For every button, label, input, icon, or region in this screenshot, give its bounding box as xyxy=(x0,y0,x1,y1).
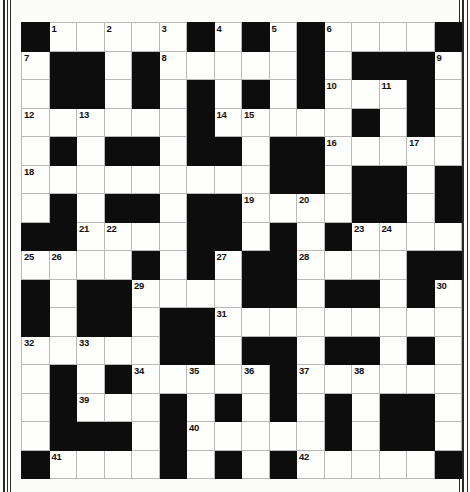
crossword-cell[interactable] xyxy=(132,336,160,365)
crossword-cell[interactable] xyxy=(77,165,105,194)
crossword-cell[interactable]: 12 xyxy=(22,108,50,137)
crossword-cell[interactable] xyxy=(407,194,435,223)
crossword-cell[interactable]: 23 xyxy=(352,222,380,251)
crossword-cell[interactable] xyxy=(379,365,407,394)
crossword-cell[interactable] xyxy=(132,165,160,194)
crossword-cell[interactable]: 33 xyxy=(77,336,105,365)
crossword-cell[interactable]: 37 xyxy=(297,365,325,394)
crossword-cell[interactable]: 29 xyxy=(132,279,160,308)
crossword-cell[interactable]: 30 xyxy=(434,279,462,308)
crossword-cell[interactable] xyxy=(379,251,407,280)
crossword-cell[interactable] xyxy=(132,222,160,251)
crossword-cell[interactable] xyxy=(407,365,435,394)
crossword-cell[interactable] xyxy=(22,80,50,109)
crossword-cell[interactable]: 1 xyxy=(49,23,77,52)
crossword-cell[interactable] xyxy=(187,51,215,80)
crossword-cell[interactable] xyxy=(104,450,132,479)
crossword-cell[interactable]: 21 xyxy=(77,222,105,251)
crossword-cell[interactable] xyxy=(104,108,132,137)
crossword-cell[interactable] xyxy=(379,23,407,52)
crossword-cell[interactable]: 2 xyxy=(104,23,132,52)
crossword-cell[interactable]: 15 xyxy=(242,108,270,137)
crossword-cell[interactable] xyxy=(22,393,50,422)
crossword-cell[interactable] xyxy=(324,450,352,479)
crossword-cell[interactable] xyxy=(352,308,380,337)
crossword-cell[interactable] xyxy=(379,308,407,337)
crossword-cell[interactable]: 3 xyxy=(159,23,187,52)
crossword-cell[interactable] xyxy=(379,336,407,365)
crossword-cell[interactable] xyxy=(269,422,297,451)
crossword-cell[interactable] xyxy=(352,422,380,451)
crossword-cell[interactable] xyxy=(242,137,270,166)
crossword-cell[interactable] xyxy=(407,450,435,479)
crossword-cell[interactable]: 8 xyxy=(159,51,187,80)
crossword-cell[interactable]: 5 xyxy=(269,23,297,52)
crossword-cell[interactable]: 40 xyxy=(187,422,215,451)
crossword-cell[interactable] xyxy=(49,308,77,337)
crossword-cell[interactable]: 31 xyxy=(214,308,242,337)
crossword-grid[interactable]: 1234567891011121314151617181920212223242… xyxy=(21,22,462,479)
crossword-cell[interactable] xyxy=(214,422,242,451)
crossword-cell[interactable] xyxy=(434,308,462,337)
crossword-cell[interactable] xyxy=(297,222,325,251)
crossword-cell[interactable] xyxy=(49,279,77,308)
crossword-cell[interactable] xyxy=(132,23,160,52)
crossword-cell[interactable] xyxy=(214,279,242,308)
crossword-cell[interactable]: 17 xyxy=(407,137,435,166)
crossword-cell[interactable] xyxy=(242,51,270,80)
crossword-cell[interactable]: 22 xyxy=(104,222,132,251)
crossword-cell[interactable] xyxy=(434,80,462,109)
crossword-cell[interactable] xyxy=(104,80,132,109)
crossword-cell[interactable] xyxy=(187,279,215,308)
crossword-cell[interactable] xyxy=(159,80,187,109)
crossword-cell[interactable] xyxy=(242,165,270,194)
crossword-cell[interactable] xyxy=(324,365,352,394)
crossword-cell[interactable] xyxy=(242,393,270,422)
crossword-cell[interactable] xyxy=(187,450,215,479)
crossword-cell[interactable]: 24 xyxy=(379,222,407,251)
crossword-cell[interactable] xyxy=(242,308,270,337)
crossword-cell[interactable] xyxy=(352,137,380,166)
crossword-cell[interactable]: 16 xyxy=(324,137,352,166)
crossword-cell[interactable] xyxy=(352,393,380,422)
crossword-cell[interactable] xyxy=(132,393,160,422)
crossword-cell[interactable]: 14 xyxy=(214,108,242,137)
crossword-cell[interactable]: 20 xyxy=(297,194,325,223)
crossword-cell[interactable] xyxy=(187,165,215,194)
crossword-cell[interactable]: 36 xyxy=(242,365,270,394)
crossword-cell[interactable] xyxy=(77,365,105,394)
crossword-cell[interactable]: 18 xyxy=(22,165,50,194)
crossword-cell[interactable] xyxy=(297,422,325,451)
crossword-cell[interactable] xyxy=(132,308,160,337)
crossword-cell[interactable] xyxy=(77,23,105,52)
crossword-cell[interactable] xyxy=(77,137,105,166)
crossword-cell[interactable] xyxy=(324,194,352,223)
crossword-cell[interactable] xyxy=(242,450,270,479)
crossword-cell[interactable] xyxy=(379,108,407,137)
crossword-cell[interactable] xyxy=(297,308,325,337)
crossword-cell[interactable] xyxy=(132,108,160,137)
crossword-cell[interactable]: 39 xyxy=(77,393,105,422)
crossword-cell[interactable] xyxy=(242,222,270,251)
crossword-cell[interactable]: 9 xyxy=(434,51,462,80)
crossword-cell[interactable]: 11 xyxy=(379,80,407,109)
crossword-cell[interactable] xyxy=(159,222,187,251)
crossword-cell[interactable] xyxy=(352,251,380,280)
crossword-cell[interactable] xyxy=(214,365,242,394)
crossword-cell[interactable] xyxy=(159,165,187,194)
crossword-cell[interactable] xyxy=(132,422,160,451)
crossword-cell[interactable] xyxy=(434,393,462,422)
crossword-cell[interactable] xyxy=(104,165,132,194)
crossword-cell[interactable] xyxy=(22,137,50,166)
crossword-cell[interactable]: 38 xyxy=(352,365,380,394)
crossword-cell[interactable] xyxy=(434,222,462,251)
crossword-cell[interactable]: 34 xyxy=(132,365,160,394)
crossword-cell[interactable]: 19 xyxy=(242,194,270,223)
crossword-cell[interactable] xyxy=(434,365,462,394)
crossword-cell[interactable]: 7 xyxy=(22,51,50,80)
crossword-cell[interactable] xyxy=(104,336,132,365)
crossword-cell[interactable] xyxy=(49,336,77,365)
crossword-cell[interactable] xyxy=(187,393,215,422)
crossword-cell[interactable] xyxy=(407,222,435,251)
crossword-cell[interactable] xyxy=(77,194,105,223)
